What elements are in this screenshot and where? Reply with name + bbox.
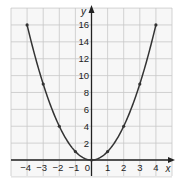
data-point-marker — [122, 125, 125, 128]
x-tick-label: −2 — [52, 162, 63, 173]
x-tick-label: −1 — [68, 162, 79, 173]
parabola-chart: −4−3−2−112340246810121416xy — [0, 0, 182, 187]
data-point-marker — [58, 125, 61, 128]
data-point-marker — [106, 150, 109, 153]
x-tick-label: 1 — [105, 162, 110, 173]
y-tick-label: 4 — [84, 121, 89, 132]
data-point-marker — [74, 150, 77, 153]
y-tick-label: 6 — [84, 104, 89, 115]
data-point-marker — [138, 82, 141, 85]
x-axis-label: x — [165, 163, 172, 174]
origin-label: 0 — [85, 162, 90, 173]
y-tick-label: 10 — [78, 70, 89, 81]
y-tick-label: 2 — [84, 138, 89, 149]
data-point-marker — [90, 158, 93, 161]
x-tick-label: −3 — [36, 162, 47, 173]
data-point-marker — [154, 23, 157, 26]
y-tick-label: 8 — [84, 87, 89, 98]
y-tick-label: 14 — [78, 36, 89, 47]
data-point-marker — [42, 82, 45, 85]
x-tick-label: −4 — [20, 162, 31, 173]
y-axis-label: y — [80, 6, 87, 17]
data-point-marker — [26, 23, 29, 26]
x-tick-label: 2 — [121, 162, 126, 173]
y-tick-label: 12 — [78, 53, 89, 64]
y-tick-label: 16 — [78, 19, 89, 30]
x-tick-label: 4 — [153, 162, 158, 173]
x-tick-label: 3 — [137, 162, 142, 173]
